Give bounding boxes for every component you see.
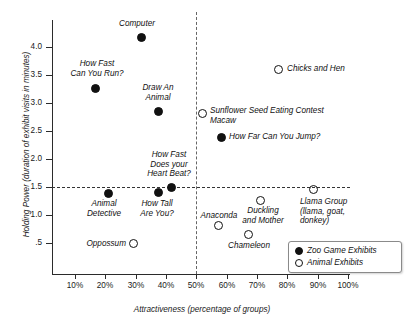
data-point-anaconda[interactable] xyxy=(214,221,223,230)
y-tick-4-0 xyxy=(46,47,52,48)
data-label-chameleon: Chameleon xyxy=(222,241,276,251)
y-tick-label-2-5: 2.5 xyxy=(16,126,42,135)
data-point-chicks-and-hen[interactable] xyxy=(274,65,283,74)
data-point-animal-detective[interactable] xyxy=(104,189,113,198)
chart-legend: Zoo Game Exhibits Animal Exhibits xyxy=(288,241,402,273)
y-tick-0-5 xyxy=(46,243,52,244)
x-axis-title: Attractiveness (percentage of groups) xyxy=(52,305,352,314)
x-tick-80 xyxy=(287,274,288,279)
x-tick-label-90: 90% xyxy=(303,281,333,290)
x-tick-label-100: 100% xyxy=(333,281,363,290)
data-label-computer: Computer xyxy=(106,19,168,29)
x-tick-90 xyxy=(318,274,319,279)
scatter-chart: Holding Power (duration of exhibit visit… xyxy=(0,0,406,324)
data-label-how-far-can-you-jump: How Far Can You Jump? xyxy=(229,132,320,142)
reference-line-attractiveness xyxy=(196,12,197,274)
y-tick-label-0-5: .5 xyxy=(16,238,42,247)
legend-marker-zoo-game-icon xyxy=(295,247,303,255)
data-point-llama-group[interactable] xyxy=(309,185,318,194)
data-point-how-far-can-you-jump[interactable] xyxy=(217,133,226,142)
data-label-heart-beat: How Fast Does your Heart Beat? xyxy=(134,150,204,179)
y-tick-2-5 xyxy=(46,131,52,132)
x-tick-20 xyxy=(105,274,106,279)
y-tick-label-1-0: 1.0 xyxy=(16,210,42,219)
x-tick-30 xyxy=(136,274,137,279)
data-point-computer[interactable] xyxy=(137,33,146,42)
data-point-macaw[interactable] xyxy=(198,109,207,118)
data-label-how-fast-can-you-run: How Fast Can You Run? xyxy=(58,59,136,78)
x-tick-label-50: 50% xyxy=(181,281,211,290)
y-tick-label-1-5: 1.5 xyxy=(16,182,42,191)
x-tick-label-70: 70% xyxy=(242,281,272,290)
x-tick-100 xyxy=(348,274,349,279)
data-label-llama-group: Llama Group (llama, goat, donkey) xyxy=(300,197,347,226)
x-tick-label-60: 60% xyxy=(212,281,242,290)
x-tick-label-30: 30% xyxy=(121,281,151,290)
data-point-oppossum[interactable] xyxy=(129,239,138,248)
y-axis-title: Holding Power (duration of exhibit visit… xyxy=(22,25,31,265)
data-label-chicks-and-hen: Chicks and Hen xyxy=(287,64,345,74)
legend-item-animal[interactable]: Animal Exhibits xyxy=(307,258,363,267)
data-point-duckling-and-mother[interactable] xyxy=(256,196,265,205)
legend-marker-animal-icon xyxy=(295,259,303,267)
x-tick-70 xyxy=(257,274,258,279)
y-tick-label-2-0: 2.0 xyxy=(16,154,42,163)
data-label-draw-an-animal: Draw An Animal xyxy=(128,83,188,102)
data-point-how-tall-are-you[interactable] xyxy=(154,188,163,197)
data-label-animal-detective: Animal Detective xyxy=(73,199,135,218)
data-label-macaw: Sunflower Seed Eating Contest Macaw xyxy=(210,106,324,125)
x-tick-10 xyxy=(75,274,76,279)
y-tick-2-0 xyxy=(46,159,52,160)
x-tick-label-40: 40% xyxy=(151,281,181,290)
reference-line-holding-power xyxy=(52,187,350,188)
x-tick-40 xyxy=(166,274,167,279)
data-label-anaconda: Anaconda xyxy=(193,211,245,221)
y-tick-3-5 xyxy=(46,75,52,76)
data-point-draw-an-animal[interactable] xyxy=(154,107,163,116)
x-axis-line xyxy=(52,274,350,275)
x-tick-label-80: 80% xyxy=(272,281,302,290)
y-tick-label-4-0: 4.0 xyxy=(16,42,42,51)
data-label-how-tall-are-you: How Tall Are You? xyxy=(126,199,188,218)
y-tick-label-3-5: 3.5 xyxy=(16,70,42,79)
y-tick-3-0 xyxy=(46,103,52,104)
x-tick-label-10: 10% xyxy=(60,281,90,290)
x-tick-60 xyxy=(227,274,228,279)
y-tick-label-3-0: 3.0 xyxy=(16,98,42,107)
y-axis-line xyxy=(52,20,53,274)
data-point-chameleon[interactable] xyxy=(244,230,253,239)
data-point-heart-beat[interactable] xyxy=(167,183,176,192)
y-tick-1-0 xyxy=(46,215,52,216)
legend-item-zoo-game[interactable]: Zoo Game Exhibits xyxy=(307,246,377,255)
data-label-oppossum: Oppossum xyxy=(72,239,126,249)
data-point-how-fast-can-you-run[interactable] xyxy=(91,84,100,93)
x-tick-50 xyxy=(196,274,197,279)
x-tick-label-20: 20% xyxy=(90,281,120,290)
